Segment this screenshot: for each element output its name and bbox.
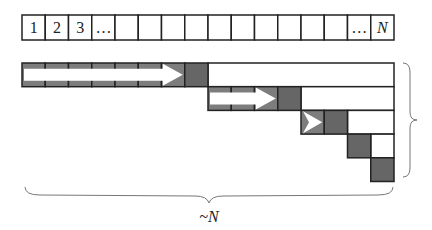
unsorted-region <box>208 63 394 87</box>
pivot-cell <box>185 63 208 87</box>
pivot-cell <box>324 110 347 134</box>
array-cell <box>162 15 185 40</box>
array-cell <box>208 15 231 40</box>
pivot-cell <box>348 134 371 158</box>
partition-diagram: 123……N ~N <box>0 0 432 230</box>
array-cell-label: … <box>351 19 367 36</box>
array-cell-label: 3 <box>76 19 84 36</box>
right-brace <box>403 63 417 177</box>
array-cell-label: 2 <box>53 19 61 36</box>
array-cell-label: … <box>95 19 111 36</box>
bottom-brace <box>25 187 393 203</box>
pivot-cell <box>371 158 394 182</box>
array-cell <box>301 15 324 40</box>
pivot-cell <box>278 87 301 111</box>
partition-passes <box>22 63 394 182</box>
partition-pass <box>22 63 394 87</box>
unsorted-region <box>301 87 394 111</box>
partition-pass <box>371 158 394 182</box>
partition-pass <box>348 134 395 158</box>
array-cell <box>185 15 208 40</box>
partition-pass <box>301 110 394 134</box>
array-row: 123……N <box>22 15 394 40</box>
array-cell <box>324 15 347 40</box>
array-cell-label: 1 <box>30 19 38 36</box>
array-cell <box>278 15 301 40</box>
array-cell <box>255 15 278 40</box>
bottom-brace-label: ~N <box>199 208 220 225</box>
partition-pass <box>208 87 394 111</box>
array-cell <box>231 15 254 40</box>
unsorted-region <box>348 110 395 134</box>
array-cell-label: N <box>376 19 389 36</box>
unsorted-region <box>371 134 394 158</box>
array-cell <box>138 15 161 40</box>
array-cell <box>115 15 138 40</box>
